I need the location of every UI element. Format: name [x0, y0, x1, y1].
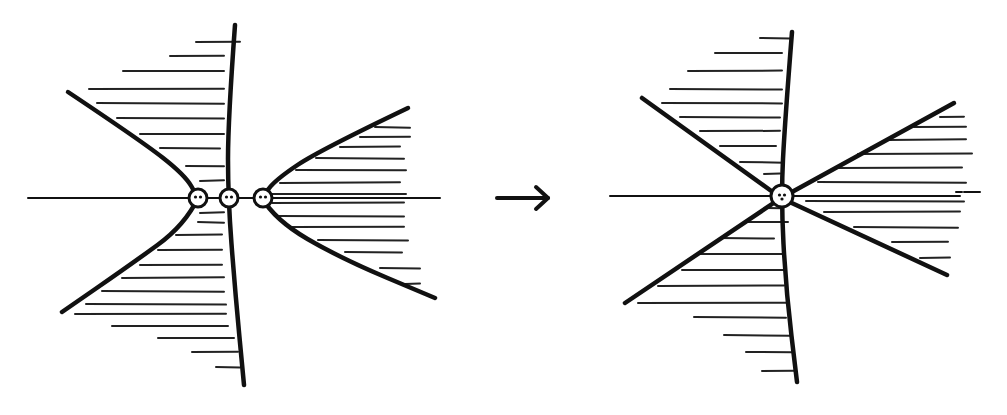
hatch-line — [760, 38, 790, 39]
hatch-line — [122, 277, 224, 278]
hatch-line — [316, 158, 404, 159]
hatch-line — [818, 182, 966, 183]
hatch-line — [724, 335, 790, 336]
hatch-line — [86, 304, 226, 305]
singular-point-dot — [780, 197, 783, 200]
hatch-line — [375, 127, 410, 128]
singular-point-dot — [264, 195, 267, 198]
hatch-line — [318, 240, 408, 241]
hatch-line — [858, 153, 972, 154]
hatch-line — [740, 162, 784, 163]
hatch-line — [97, 103, 224, 104]
singular-point-circle — [189, 189, 207, 207]
hatch-line — [670, 89, 782, 90]
transition-arrow-icon — [497, 187, 548, 209]
right-branch-upper — [262, 108, 408, 198]
hatch-line — [200, 212, 224, 213]
left-panel-three-points — [28, 25, 440, 385]
hatch-line — [160, 148, 220, 149]
hatch-line — [658, 285, 784, 286]
hatch-line — [200, 180, 224, 181]
line-lower-left — [625, 198, 781, 303]
right-panel-merged-point — [610, 32, 980, 382]
hatch-line — [854, 227, 958, 228]
hatch-line — [102, 291, 224, 292]
hatch-line — [720, 238, 774, 239]
line-lower-right — [781, 198, 947, 275]
singular-point-circle — [220, 189, 238, 207]
left-branch-upper — [68, 92, 198, 198]
singular-point-dot — [778, 193, 781, 196]
hatch-line — [380, 268, 420, 269]
singular-point-dot — [259, 195, 262, 198]
singular-point-dot — [783, 193, 786, 196]
hatch-line — [836, 167, 962, 168]
singular-point-circle — [771, 185, 793, 207]
singular-point-dot — [194, 195, 197, 198]
line-upper-left — [642, 98, 781, 198]
left-branch-lower — [62, 198, 198, 312]
hatch-line — [198, 222, 224, 223]
singular-point-circle — [254, 189, 272, 207]
hatch-line — [280, 182, 400, 183]
line-upper-right — [781, 103, 954, 198]
hatch-line — [340, 146, 400, 147]
singular-point-dot — [225, 195, 228, 198]
bifurcation-diagram — [0, 0, 1007, 415]
hatch-line — [694, 317, 786, 318]
hatch-line — [888, 139, 966, 140]
hatch-line — [680, 117, 780, 118]
diagram-canvas — [0, 0, 1007, 415]
singular-point-dot — [230, 195, 233, 198]
singular-point-dot — [199, 195, 202, 198]
